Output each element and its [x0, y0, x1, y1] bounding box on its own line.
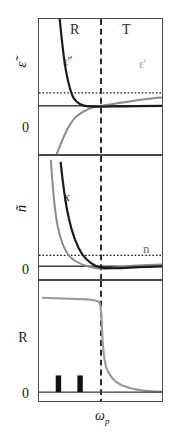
- y-tick-zero-refractive-index: 0: [22, 262, 29, 278]
- omega-subscript: p: [105, 416, 110, 426]
- y-axis-label-refractive-index: ñ: [13, 196, 30, 222]
- panel-dielectric-function: [38, 18, 163, 155]
- refractive-index-curves: [39, 156, 162, 279]
- panel-refractive-index: [38, 155, 163, 280]
- spectral-bar-1: [56, 375, 61, 392]
- y-axis-label-reflectance: R: [12, 330, 34, 346]
- plot-area-refractive-index: [39, 156, 162, 279]
- y-tick-zero-dielectric: 0: [22, 120, 29, 136]
- y-tick-zero-reflectance: 0: [22, 386, 29, 402]
- plot-area-dielectric: [39, 19, 162, 154]
- region-label-transmitting: T: [122, 22, 131, 38]
- dielectric-curves: [39, 19, 162, 154]
- curve-label-kappa: κ: [64, 190, 70, 205]
- spectral-bar-2: [77, 375, 82, 392]
- panel-reflectance: [38, 280, 163, 402]
- plot-area-reflectance: [39, 281, 162, 401]
- x-axis-label-plasma-frequency: ωp: [95, 408, 109, 426]
- omega-symbol: ω: [95, 408, 105, 423]
- y-axis-label-dielectric: ε̃: [13, 52, 30, 78]
- reflectance-curves: [39, 281, 162, 401]
- curve-label-n: n: [143, 241, 150, 257]
- region-label-reflecting: R: [70, 22, 79, 38]
- optical-response-figure: ε̃ 0 R T ε″ ε′ ñ 0 κ n: [0, 0, 169, 442]
